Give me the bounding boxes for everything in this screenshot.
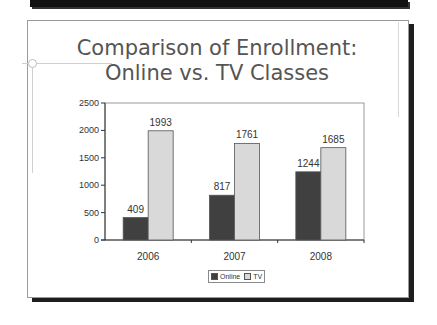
y-tick-label: 2000 bbox=[79, 125, 99, 135]
data-label: 1761 bbox=[236, 129, 259, 140]
data-label: 409 bbox=[127, 204, 144, 215]
legend-swatch-online bbox=[211, 273, 218, 280]
x-category-label: 2006 bbox=[137, 251, 160, 262]
legend-label-online: Online bbox=[220, 271, 240, 282]
y-tick-label: 0 bbox=[94, 235, 99, 245]
x-category-label: 2007 bbox=[223, 251, 246, 262]
data-label: 1993 bbox=[150, 117, 173, 128]
y-tick-label: 1500 bbox=[79, 153, 99, 163]
y-tick-label: 1000 bbox=[79, 180, 99, 190]
y-tick-label: 500 bbox=[84, 208, 99, 218]
data-label: 817 bbox=[214, 181, 231, 192]
y-axis-ticks: 05001000150020002500 bbox=[79, 98, 105, 245]
bar-online-2008 bbox=[296, 172, 321, 240]
legend-label-tv: TV bbox=[253, 271, 262, 282]
x-category-label: 2008 bbox=[310, 251, 333, 262]
bar-online-2007 bbox=[210, 195, 235, 240]
chart-legend: Online TV bbox=[208, 270, 265, 283]
bar-tv-2006 bbox=[148, 131, 173, 240]
legend-swatch-tv bbox=[244, 273, 251, 280]
bar-tv-2007 bbox=[235, 143, 260, 240]
bar-online-2006 bbox=[123, 218, 148, 240]
y-tick-label: 2500 bbox=[79, 98, 99, 108]
category-labels: 200620072008 bbox=[137, 251, 332, 262]
data-label: 1244 bbox=[297, 158, 320, 169]
data-label: 1685 bbox=[322, 134, 345, 145]
bar-tv-2008 bbox=[321, 148, 346, 240]
